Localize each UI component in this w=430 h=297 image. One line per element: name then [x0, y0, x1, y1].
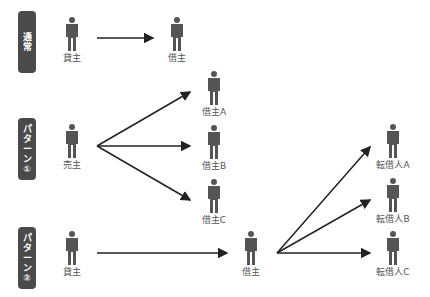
- person-seller: 売主: [57, 124, 87, 171]
- label: 借主: [147, 51, 207, 64]
- person-icon: [207, 125, 221, 159]
- arrow-icon: [277, 147, 370, 253]
- person-icon: [170, 17, 184, 51]
- person-icon: [386, 178, 400, 212]
- person-icon: [244, 231, 258, 265]
- person-subtenant-c: 転借人C: [378, 231, 408, 278]
- label: 売主: [42, 158, 102, 171]
- person-lender-p2: 貸主: [57, 231, 87, 278]
- person-icon: [65, 231, 79, 265]
- label: 転借人C: [363, 265, 423, 278]
- person-icon: [65, 124, 79, 158]
- person-borrower-b: 借主B: [199, 125, 229, 172]
- person-icon: [386, 124, 400, 158]
- label: 借主: [221, 265, 281, 278]
- person-subtenant-a: 転借人A: [378, 124, 408, 171]
- label: 借主A: [184, 105, 244, 118]
- arrow-icon: [97, 92, 190, 146]
- person-borrower-c: 借主C: [199, 179, 229, 226]
- label: 転借人A: [363, 158, 423, 171]
- label: 借主B: [184, 159, 244, 172]
- person-borrower-a: 借主A: [199, 71, 229, 118]
- label: 借主C: [184, 213, 244, 226]
- person-subtenant-b: 転借人B: [378, 178, 408, 225]
- label: 貸主: [42, 51, 102, 64]
- label: 貸主: [42, 265, 102, 278]
- arrow-icon: [277, 200, 370, 253]
- person-borrower-p2: 借主: [236, 231, 266, 278]
- person-icon: [386, 231, 400, 265]
- person-icon: [207, 71, 221, 105]
- arrow-icon: [97, 146, 190, 200]
- person-borrower-normal: 借主: [162, 17, 192, 64]
- person-lender-normal: 貸主: [57, 17, 87, 64]
- label: 転借人B: [363, 212, 423, 225]
- person-icon: [65, 17, 79, 51]
- person-icon: [207, 179, 221, 213]
